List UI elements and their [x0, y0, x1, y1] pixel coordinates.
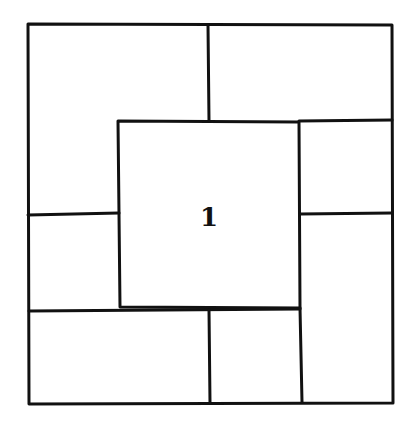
divider-top-vertical	[208, 25, 209, 121]
divider-right-middle-horizontal	[300, 213, 392, 214]
pinwheel-square-diagram: 1	[0, 0, 414, 425]
divider-right-vertical	[300, 308, 302, 402]
divider-bottom-vertical	[209, 310, 210, 403]
divider-bottom-horizontal	[29, 309, 300, 311]
center-label: 1	[200, 202, 218, 232]
divider-left-horizontal	[28, 213, 119, 215]
divider-right-top-horizontal	[299, 120, 392, 121]
